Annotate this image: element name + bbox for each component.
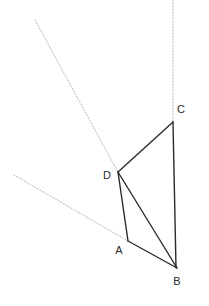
edge-DA [118, 172, 128, 241]
vertex-label-B: B [173, 275, 180, 287]
vertex-label-C: C [177, 103, 185, 115]
geometry-figure-svg: A B C D [0, 0, 209, 306]
dotted-construction-lines [14, 0, 173, 241]
edge-AB [128, 241, 177, 268]
vertex-label-A: A [115, 244, 123, 256]
edge-CB [173, 122, 176, 268]
construction-line-to-D [35, 20, 118, 172]
construction-line-to-A [14, 175, 128, 241]
edge-DC [118, 122, 173, 172]
edge-DB [118, 172, 177, 268]
vertex-label-D: D [103, 169, 111, 181]
solid-edges [118, 122, 177, 268]
geometry-figure-canvas: A B C D [0, 0, 209, 306]
